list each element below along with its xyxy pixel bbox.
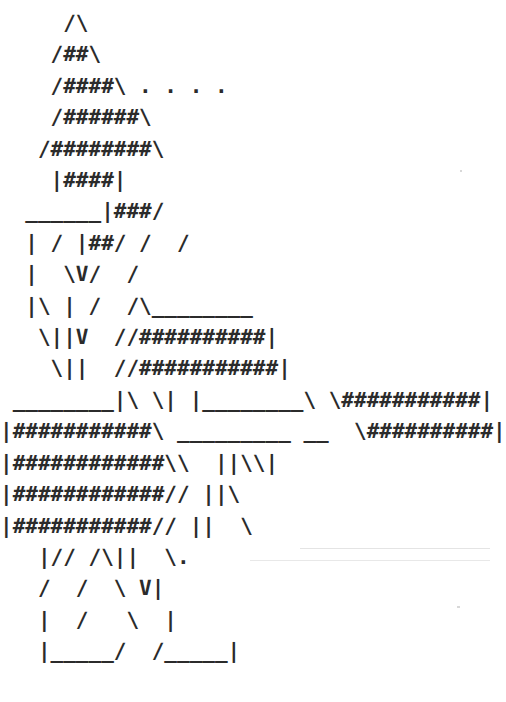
ascii-art-figure: /\ /##\ /####\ . . . . /######\ /#######… [0,8,506,668]
